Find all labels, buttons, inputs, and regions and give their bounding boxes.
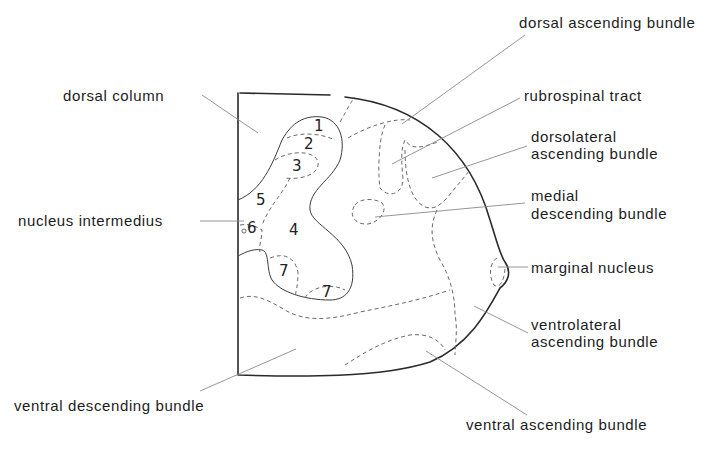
ventral-horn-boundary [240,290,450,319]
lamina-7b: 7 [322,285,332,300]
label-nucleus-intermedius: nucleus intermedius [18,212,163,229]
leader-ventral-descending [200,349,296,391]
label-ventral-ascending-bundle: ventral ascending bundle [466,416,647,433]
leader-medial-descending [375,203,525,217]
dorsal-ascending-boundary [348,120,410,138]
leader-dorsal-column [202,95,258,133]
label-ventrolateral-line1: ventrolateral [531,316,621,333]
leader-dorsolateral [432,146,527,178]
lamina-7a: 7 [279,264,289,279]
medial-descending-region [352,199,384,224]
label-dorsal-ascending-bundle: dorsal ascending bundle [519,14,695,31]
dorsal-boundary [340,97,355,122]
leader-dorsal-ascending [402,35,525,124]
label-medial-line1: medial [531,187,579,204]
rubrospinal-region [379,125,438,194]
label-ventral-descending-bundle: ventral descending bundle [14,397,204,414]
label-ventrolateral-line2: ascending bundle [531,333,658,350]
label-marginal-nucleus: marginal nucleus [531,259,654,276]
lateral-intermediate-boundary [432,210,456,355]
label-dorsolateral-line2: ascending bundle [531,145,658,162]
ventral-ascending-boundary [345,335,445,365]
nucleus-intermedius-marker [242,229,246,233]
label-rubrospinal-tract: rubrospinal tract [524,87,642,104]
marginal-nucleus-region [490,258,505,286]
lamina-6: 6 [247,221,257,236]
lamina-2: 2 [304,137,314,152]
label-dorsolateral-line1: dorsolateral [531,128,617,145]
lamina-1: 1 [314,119,324,134]
leader-ventral-ascending [426,351,527,415]
lamina-5: 5 [256,193,266,208]
leader-ventrolateral [474,306,528,333]
cord-outline [238,93,509,376]
lamina-4: 4 [289,223,299,238]
label-dorsal-column: dorsal column [63,87,164,104]
lamina-3: 3 [292,159,302,174]
lamina-3-5-boundary [262,178,290,225]
label-medial-line2: descending bundle [531,205,667,222]
